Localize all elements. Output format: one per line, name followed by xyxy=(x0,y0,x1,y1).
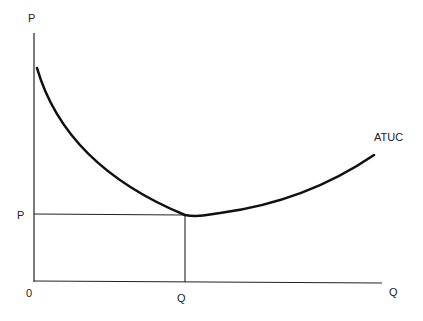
price-level-label: P xyxy=(17,209,24,221)
atuc-curve xyxy=(37,68,374,216)
curve-label: ATUC xyxy=(374,131,403,143)
x-axis xyxy=(34,281,382,283)
y-axis-label: P xyxy=(28,12,35,24)
x-axis-label: Q xyxy=(389,286,398,298)
price-guide-line xyxy=(34,214,185,215)
quantity-level-label: Q xyxy=(177,292,186,304)
origin-label: 0 xyxy=(26,287,32,299)
atuc-diagram: P P 0 Q Q ATUC xyxy=(0,0,423,321)
